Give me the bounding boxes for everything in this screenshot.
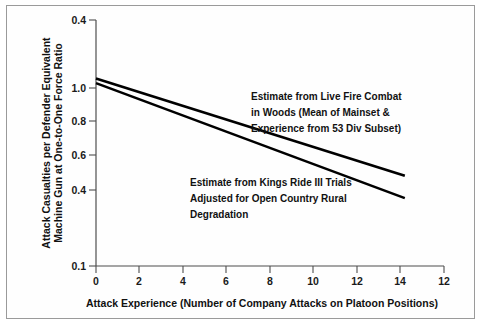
x-tick-label-7: 14 (394, 275, 406, 287)
x-tick-label-4: 8 (267, 275, 273, 287)
y-tick-label-5: 0.1 (71, 260, 86, 272)
x-tick-label-6: 12 (351, 275, 363, 287)
annotation-live-fire-line-2: in Woods (Mean of Mainset & (251, 107, 390, 118)
y-tick-label-0: 0.4 (71, 14, 86, 26)
chart-page: 0.4 1.0 0.8 0.6 0.4 0.1 0 2 4 6 (0, 0, 483, 327)
annotation-kings-ride: Estimate from Kings Ride III Trials Adju… (190, 177, 352, 220)
annotation-kings-ride-line-3: Degradation (190, 209, 248, 220)
y-tick-label-1: 1.0 (71, 82, 86, 94)
x-tick-label-8: 12 (438, 275, 450, 287)
annotation-live-fire-line-1: Estimate from Live Fire Combat (251, 91, 402, 102)
x-tick-label-2: 4 (180, 275, 186, 287)
annotation-live-fire-combat: Estimate from Live Fire Combat in Woods … (251, 91, 402, 134)
y-axis-title: Attack Casualties per Defender Equivalen… (40, 37, 64, 249)
annotation-kings-ride-line-1: Estimate from Kings Ride III Trials (190, 177, 352, 188)
line-chart: 0.4 1.0 0.8 0.6 0.4 0.1 0 2 4 6 (0, 0, 483, 327)
x-tick-label-5: 10 (307, 275, 319, 287)
y-tick-label-4: 0.4 (71, 184, 86, 196)
y-tick-label-3: 0.6 (71, 149, 86, 161)
y-axis-title-line-2: Machine Gun at One-to-One Force Ratio (52, 43, 64, 243)
x-axis-title: Attack Experience (Number of Company Att… (86, 297, 438, 309)
annotation-kings-ride-line-2: Adjusted for Open Country Rural (190, 193, 347, 204)
y-axis-title-line-1: Attack Casualties per Defender Equivalen… (40, 37, 52, 249)
x-tick-label-1: 2 (136, 275, 142, 287)
y-axis-ticks (89, 20, 96, 266)
plot-area: 0.4 1.0 0.8 0.6 0.4 0.1 0 2 4 6 (0, 0, 483, 327)
x-tick-label-3: 6 (223, 275, 229, 287)
annotation-live-fire-line-3: Experience from 53 Div Subset) (251, 123, 401, 134)
y-tick-label-2: 0.8 (71, 115, 86, 127)
x-axis-ticks (96, 266, 444, 273)
x-tick-label-0: 0 (93, 275, 99, 287)
